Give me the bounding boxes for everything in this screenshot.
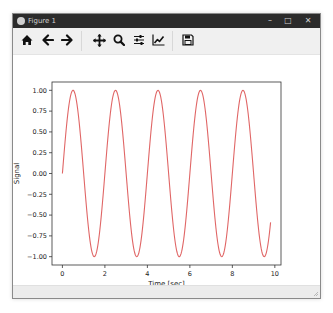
- navigation-toolbar: [13, 28, 320, 55]
- y-tick-label: 0.50: [33, 128, 47, 136]
- y-axis-label: Signal: [13, 163, 21, 185]
- y-tick-label: −0.75: [27, 232, 47, 240]
- arrow-left-icon: [42, 34, 54, 46]
- zoom-button[interactable]: [111, 32, 127, 48]
- maximize-button[interactable]: □: [280, 14, 296, 28]
- y-tick-label: 0.75: [33, 107, 47, 115]
- x-tick-label: 4: [145, 270, 149, 278]
- y-tick-label: 0.25: [33, 149, 47, 157]
- x-tick-label: 2: [103, 270, 107, 278]
- sliders-icon: [133, 34, 145, 46]
- plot: 02468101.000.750.500.250.00−0.25−0.50−0.…: [13, 55, 320, 287]
- pan-button[interactable]: [91, 32, 107, 48]
- resize-grip-icon[interactable]: [313, 291, 319, 297]
- signal-line: [62, 90, 270, 256]
- magnifier-icon: [113, 34, 125, 46]
- arrow-right-icon: [61, 34, 73, 46]
- y-tick-label: −1.00: [27, 253, 47, 261]
- edit-axis-button[interactable]: [150, 32, 166, 48]
- floppy-disk-icon: [182, 34, 194, 46]
- x-tick-label: 8: [230, 270, 234, 278]
- move-icon: [93, 34, 106, 47]
- window-title: Figure 1: [28, 15, 56, 27]
- toolbar-separator: [172, 31, 173, 51]
- status-bar: [13, 285, 320, 298]
- save-button[interactable]: [180, 32, 196, 48]
- axes-frame: [52, 82, 281, 265]
- y-tick-label: 0.00: [33, 170, 47, 178]
- figure-canvas[interactable]: 02468101.000.750.500.250.00−0.25−0.50−0.…: [13, 55, 320, 286]
- x-tick-label: 6: [188, 270, 192, 278]
- x-tick-label: 10: [271, 270, 279, 278]
- back-button[interactable]: [40, 32, 56, 48]
- subplots-button[interactable]: [131, 32, 147, 48]
- x-tick-label: 0: [60, 270, 64, 278]
- figure-window: Figure 1 – □ ✕ 02468101.: [12, 13, 321, 299]
- matplotlib-logo-icon: [17, 17, 25, 25]
- minimize-button[interactable]: –: [262, 14, 278, 28]
- y-tick-label: −0.50: [27, 211, 47, 219]
- toolbar-separator: [81, 31, 82, 51]
- line-chart-icon: [152, 34, 165, 46]
- y-tick-label: −0.25: [27, 191, 47, 199]
- forward-button[interactable]: [59, 32, 75, 48]
- home-icon: [21, 34, 33, 46]
- home-button[interactable]: [19, 32, 35, 48]
- title-bar[interactable]: Figure 1 – □ ✕: [13, 14, 320, 28]
- close-button[interactable]: ✕: [300, 14, 316, 28]
- y-tick-label: 1.00: [33, 87, 47, 95]
